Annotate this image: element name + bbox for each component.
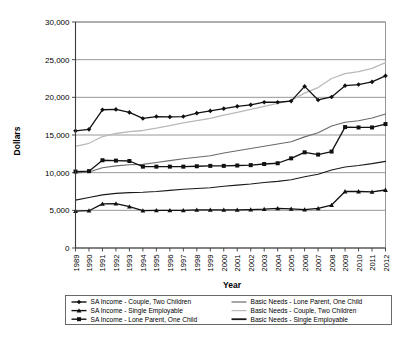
marker-square [208, 164, 212, 168]
marker-square [222, 164, 226, 168]
x-tick-label: 2010 [355, 255, 364, 272]
legend-item[interactable]: Basic Needs - Couple, Two Children [232, 307, 357, 315]
x-tick-label: 1993 [125, 255, 134, 272]
legend-label: Basic Needs - Single Employable [251, 316, 349, 324]
x-axis-ticklabels: 1989199019911992199319941995199619971998… [72, 255, 391, 272]
marker-square [141, 165, 145, 169]
marker-diamond [262, 100, 267, 105]
marker-diamond [181, 114, 186, 119]
marker-diamond [383, 74, 388, 79]
x-tick-label: 2000 [220, 255, 229, 272]
series-line [76, 63, 386, 147]
marker-diamond [195, 111, 200, 116]
marker-diamond [370, 80, 375, 85]
marker-square [262, 162, 266, 166]
x-tick-label: 2009 [341, 255, 350, 272]
marker-square [384, 122, 388, 126]
legend-item[interactable]: SA Income - Lone Parent, One Child [72, 316, 198, 323]
marker-diamond [114, 107, 119, 112]
x-tick-label: 1998 [193, 255, 202, 272]
marker-square [235, 164, 239, 168]
series-5 [76, 161, 386, 200]
series-line [76, 114, 386, 173]
x-tick-label: 2007 [314, 255, 323, 272]
legend-label: SA Income - Lone Parent, One Child [91, 316, 198, 323]
series-0 [73, 74, 388, 134]
marker-square [154, 165, 158, 169]
marker-diamond [141, 116, 146, 121]
marker-square [195, 164, 199, 168]
x-tick-label: 1999 [206, 255, 215, 272]
marker-square [303, 150, 307, 154]
series-line [76, 124, 386, 171]
x-tick-label: 2006 [301, 255, 310, 272]
legend-label: SA Income - Couple, Two Children [91, 298, 192, 306]
marker-square [168, 165, 172, 169]
x-tick-label: 2002 [247, 255, 256, 272]
y-axis-ticklabels: 05,00010,00015,00020,00025,00030,000 [45, 18, 70, 253]
series-3 [76, 114, 386, 173]
y-tick-label: 0 [65, 244, 70, 253]
marker-square [87, 169, 91, 173]
marker-square [343, 125, 347, 129]
marker-square [77, 317, 81, 321]
marker-diamond [221, 106, 226, 111]
y-tick-label: 5,000 [49, 206, 70, 215]
marker-square [127, 159, 131, 163]
marker-diamond [235, 104, 240, 109]
marker-square [249, 163, 253, 167]
marker-diamond [248, 103, 253, 108]
x-tick-label: 2005 [287, 255, 296, 272]
marker-square [370, 125, 374, 129]
marker-diamond [356, 82, 361, 87]
chart-container: 05,00010,00015,00020,00025,00030,000 198… [0, 0, 400, 342]
y-tick-label: 10,000 [45, 169, 70, 178]
legend-item[interactable]: Basic Needs - Lone Parent, One Child [232, 298, 363, 305]
series-1 [73, 188, 388, 213]
chart-legend: SA Income - Couple, Two ChildrenSA Incom… [66, 296, 392, 325]
marker-square [181, 165, 185, 169]
marker-square [330, 150, 334, 154]
x-tick-label: 1994 [139, 255, 148, 272]
marker-diamond [168, 115, 173, 120]
marker-square [100, 158, 104, 162]
series-line [76, 161, 386, 200]
x-tick-label: 2012 [382, 255, 391, 272]
series-line [76, 76, 386, 131]
x-tick-label: 1996 [166, 255, 175, 272]
marker-square [289, 156, 293, 160]
plot-series [73, 63, 388, 213]
x-tick-label: 1991 [98, 255, 107, 272]
x-tick-label: 1997 [179, 255, 188, 272]
x-tick-label: 2003 [260, 255, 269, 272]
marker-diamond [154, 114, 159, 119]
x-tick-label: 1990 [85, 255, 94, 272]
x-tick-label: 2011 [368, 255, 377, 271]
legend-label: SA Income - Single Employable [91, 307, 184, 315]
x-tick-label: 1995 [152, 255, 161, 272]
x-axis-title: Year [223, 280, 242, 290]
x-tick-label: 1992 [112, 255, 121, 272]
x-tick-label: 1989 [72, 255, 81, 272]
marker-square [357, 125, 361, 129]
y-tick-label: 15,000 [45, 131, 70, 140]
legend-label: Basic Needs - Lone Parent, One Child [251, 298, 363, 305]
marker-diamond [208, 109, 213, 114]
y-tick-label: 25,000 [45, 56, 70, 65]
marker-square [276, 161, 280, 165]
y-axis-title: Dollars [12, 126, 22, 155]
marker-square [114, 159, 118, 163]
x-tick-label: 2008 [328, 255, 337, 272]
marker-diamond [127, 110, 132, 115]
marker-square [316, 153, 320, 157]
x-tick-label: 2004 [274, 255, 283, 272]
y-tick-label: 30,000 [45, 18, 70, 27]
series-4 [76, 63, 386, 147]
legend-label: Basic Needs - Couple, Two Children [251, 307, 357, 315]
y-tick-label: 20,000 [45, 93, 70, 102]
plot-grid [72, 22, 386, 248]
x-tick-label: 2001 [233, 255, 242, 272]
line-chart-figure: 05,00010,00015,00020,00025,00030,000 198… [0, 0, 400, 342]
